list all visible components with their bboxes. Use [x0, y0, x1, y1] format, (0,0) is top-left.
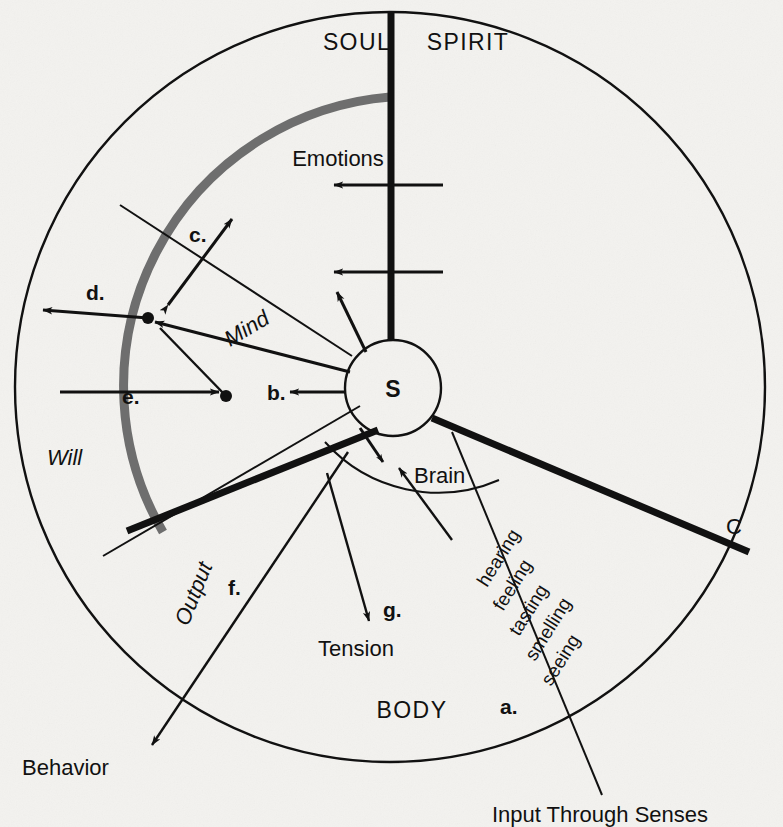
diagram-page: S SO: [0, 0, 783, 827]
key-label-g: g.: [383, 598, 402, 621]
caption-input-through-senses: Input Through Senses: [492, 802, 708, 827]
key-label-e: e.: [122, 385, 140, 408]
label-brain: Brain: [414, 463, 465, 488]
key-label-d: d.: [86, 281, 105, 304]
label-will: Will: [47, 445, 83, 470]
label-c-marker: C: [726, 514, 742, 539]
label-emotions: Emotions: [292, 146, 384, 171]
key-label-c: c.: [189, 223, 207, 246]
sector-label-spirit: SPIRIT: [427, 29, 510, 55]
label-tension: Tension: [318, 636, 394, 661]
sector-label-body: BODY: [377, 697, 448, 723]
center-node-label: S: [385, 376, 400, 402]
key-label-f: f.: [228, 576, 241, 599]
label-behavior: Behavior: [22, 755, 109, 780]
sector-label-soul: SOUL: [323, 29, 391, 55]
tripartite-circle-diagram: S SO: [0, 0, 783, 827]
key-label-b: b.: [267, 381, 286, 404]
key-label-a: a.: [500, 695, 518, 718]
